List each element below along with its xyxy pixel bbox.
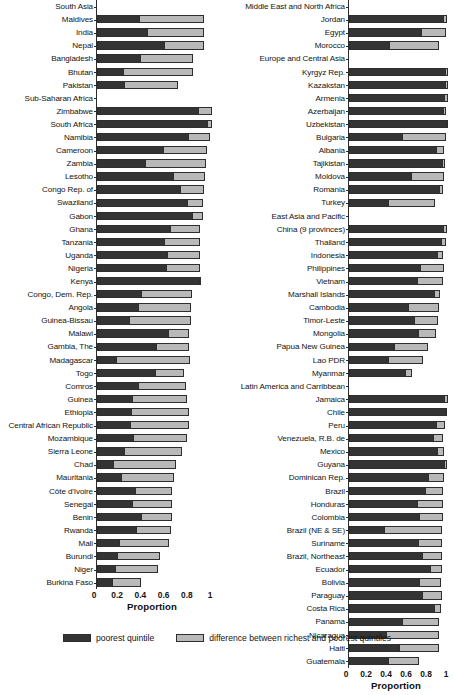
- bar-track: [348, 105, 454, 118]
- bar-track: [348, 327, 454, 340]
- country-bar-row: Venezuela, R.B. de: [227, 432, 454, 445]
- stacked-bar: [349, 539, 442, 547]
- panel-left-rows: South AsiaMaldivesIndiaNepalBangladeshBh…: [0, 0, 227, 589]
- bar-segment-poorest-quintile: [98, 566, 115, 572]
- country-label: Costa Rica: [227, 604, 348, 613]
- bar-segment-poorest-quintile: [350, 42, 389, 48]
- bar-track: [348, 301, 454, 314]
- y-axis-tick: [346, 321, 349, 322]
- y-axis-line: [348, 52, 349, 65]
- bar-track: [96, 524, 227, 537]
- country-bar-row: Nigeria: [0, 262, 227, 275]
- bar-segment-difference: [115, 566, 158, 572]
- bar-segment-poorest-quintile: [350, 409, 445, 415]
- bar-segment-difference: [207, 121, 210, 127]
- bar-segment-difference: [155, 370, 183, 376]
- country-bar-row: Haiti: [227, 642, 454, 655]
- country-bar-row: Bhutan: [0, 65, 227, 78]
- bar-segment-poorest-quintile: [98, 147, 163, 153]
- bar-segment-poorest-quintile: [350, 239, 441, 245]
- y-axis-tick: [94, 373, 97, 374]
- bar-track: [96, 262, 227, 275]
- stacked-bar: [349, 68, 448, 76]
- bar-track: [96, 13, 227, 26]
- y-axis-tick: [94, 85, 97, 86]
- bar-track: [96, 458, 227, 471]
- bar-track: [96, 39, 227, 52]
- country-bar-row: Benin: [0, 511, 227, 524]
- country-label: Uzbekistan: [227, 120, 348, 129]
- y-axis-tick: [94, 399, 97, 400]
- bar-segment-difference: [388, 658, 418, 664]
- y-axis-tick: [346, 439, 349, 440]
- bar-segment-difference: [198, 108, 211, 114]
- stacked-bar: [349, 644, 439, 652]
- y-axis-tick: [346, 491, 349, 492]
- bar-segment-poorest-quintile: [350, 357, 388, 363]
- stacked-bar: [97, 303, 191, 311]
- country-bar-row: Guyana: [227, 458, 454, 471]
- y-axis-tick: [94, 268, 97, 269]
- bar-segment-poorest-quintile: [98, 396, 132, 402]
- stacked-bar: [349, 408, 447, 416]
- country-bar-row: Guinea-Bissau: [0, 314, 227, 327]
- country-bar-row: Rwanda: [0, 524, 227, 537]
- country-label: Mali: [0, 539, 96, 548]
- bar-segment-poorest-quintile: [98, 330, 168, 336]
- country-bar-row: Panama: [227, 615, 454, 628]
- bar-segment-difference: [192, 213, 201, 219]
- bar-segment-difference: [117, 553, 159, 559]
- country-bar-row: Zimbabwe: [0, 105, 227, 118]
- country-label: Chile: [227, 408, 348, 417]
- y-axis-tick: [94, 334, 97, 335]
- country-bar-row: Myanmar: [227, 367, 454, 380]
- bar-track: [96, 223, 227, 236]
- bar-track: [96, 183, 227, 196]
- country-bar-row: Madagascar: [0, 354, 227, 367]
- bar-track: [96, 105, 227, 118]
- bar-segment-difference: [433, 435, 442, 441]
- country-label: Myanmar: [227, 369, 348, 378]
- country-bar-row: Turkey: [227, 196, 454, 209]
- bar-track: [96, 445, 227, 458]
- bar-segment-poorest-quintile: [350, 121, 446, 127]
- country-label: Brazil, Northeast: [227, 552, 348, 561]
- y-axis-tick: [346, 386, 349, 387]
- bar-segment-difference: [419, 579, 440, 585]
- country-bar-row: Ethiopia: [0, 406, 227, 419]
- stacked-bar: [97, 107, 212, 115]
- bar-segment-poorest-quintile: [350, 448, 437, 454]
- y-axis-tick: [346, 373, 349, 374]
- y-axis-tick: [346, 360, 349, 361]
- bar-segment-poorest-quintile: [350, 553, 422, 559]
- country-bar-row: Albania: [227, 144, 454, 157]
- country-label: Gambia, The: [0, 342, 96, 351]
- bar-track: [348, 484, 454, 497]
- stacked-bar: [97, 343, 189, 351]
- country-bar-row: Angola: [0, 301, 227, 314]
- stacked-bar: [349, 447, 444, 455]
- bar-segment-poorest-quintile: [98, 200, 187, 206]
- country-label: Morocco: [227, 41, 348, 50]
- bar-track: [96, 406, 227, 419]
- bar-segment-difference: [420, 265, 443, 271]
- y-axis-tick: [346, 465, 349, 466]
- stacked-bar: [349, 618, 439, 626]
- country-label: Egypt: [227, 28, 348, 37]
- y-axis-tick: [346, 596, 349, 597]
- bar-track: [348, 642, 454, 655]
- country-label: Maldives: [0, 15, 96, 24]
- y-axis-tick: [94, 583, 97, 584]
- country-bar-row: Kazakstan: [227, 79, 454, 92]
- country-bar-row: Zambia: [0, 157, 227, 170]
- country-bar-row: Mozambique: [0, 432, 227, 445]
- y-axis-tick: [346, 85, 349, 86]
- bar-segment-poorest-quintile: [98, 16, 139, 22]
- bar-segment-poorest-quintile: [98, 304, 138, 310]
- country-bar-row: Philippines: [227, 262, 454, 275]
- country-bar-row: Paraguay: [227, 589, 454, 602]
- country-bar-row: India: [0, 26, 227, 39]
- country-bar-row: Sierra Leone: [0, 445, 227, 458]
- x-tick-label: 0.2: [111, 590, 123, 600]
